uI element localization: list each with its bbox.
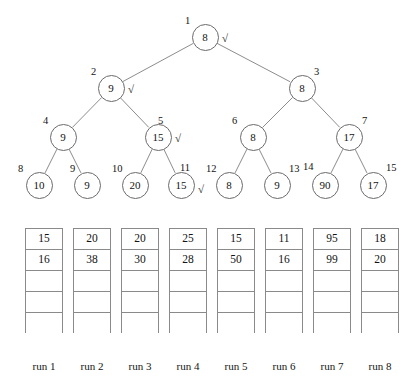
run-column: 2038 xyxy=(73,228,111,333)
run-cell[interactable]: 15 xyxy=(217,228,255,249)
run-cell[interactable]: 16 xyxy=(25,249,63,270)
run-column: 2030 xyxy=(121,228,159,333)
run-column: 1550 xyxy=(217,228,255,333)
run-cell[interactable] xyxy=(217,270,255,291)
run-cell[interactable] xyxy=(73,291,111,312)
run-cell[interactable] xyxy=(265,312,303,333)
run-cell[interactable] xyxy=(25,270,63,291)
run-column: 9599 xyxy=(313,228,351,333)
run-label: run 4 xyxy=(169,361,207,372)
run-cell[interactable] xyxy=(121,270,159,291)
run-cell[interactable]: 11 xyxy=(265,228,303,249)
run-cell[interactable] xyxy=(313,270,351,291)
run-cell[interactable] xyxy=(361,270,399,291)
run-label: run 3 xyxy=(121,361,159,372)
run-cell[interactable] xyxy=(25,291,63,312)
run-column: 1516 xyxy=(25,228,63,333)
run-label: run 5 xyxy=(217,361,255,372)
run-cell[interactable]: 95 xyxy=(313,228,351,249)
run-cell[interactable]: 20 xyxy=(361,249,399,270)
run-cell[interactable] xyxy=(25,312,63,333)
runs-table: 1516run 12038run 22030run 32528run 41550… xyxy=(0,0,416,387)
run-cell[interactable] xyxy=(217,291,255,312)
run-cell[interactable] xyxy=(169,312,207,333)
run-cell[interactable]: 28 xyxy=(169,249,207,270)
run-cell[interactable]: 25 xyxy=(169,228,207,249)
run-cell[interactable] xyxy=(73,270,111,291)
run-column: 1820 xyxy=(361,228,399,333)
run-cell[interactable]: 50 xyxy=(217,249,255,270)
run-cell[interactable] xyxy=(361,291,399,312)
run-cell[interactable]: 20 xyxy=(121,228,159,249)
run-cell[interactable] xyxy=(265,270,303,291)
run-cell[interactable]: 99 xyxy=(313,249,351,270)
run-cell[interactable]: 38 xyxy=(73,249,111,270)
run-column: 1116 xyxy=(265,228,303,333)
run-label: run 1 xyxy=(25,361,63,372)
run-cell[interactable] xyxy=(217,312,255,333)
run-label: run 6 xyxy=(265,361,303,372)
run-cell[interactable] xyxy=(121,291,159,312)
run-label: run 8 xyxy=(361,361,399,372)
run-cell[interactable] xyxy=(265,291,303,312)
run-cell[interactable]: 30 xyxy=(121,249,159,270)
run-cell[interactable]: 20 xyxy=(73,228,111,249)
run-cell[interactable] xyxy=(361,312,399,333)
run-cell[interactable]: 15 xyxy=(25,228,63,249)
run-cell[interactable] xyxy=(169,270,207,291)
run-column: 2528 xyxy=(169,228,207,333)
run-cell[interactable]: 16 xyxy=(265,249,303,270)
run-cell[interactable]: 18 xyxy=(361,228,399,249)
run-label: run 7 xyxy=(313,361,351,372)
tournament-tree-figure: 18√29√3849515√687178109910201115√1281391… xyxy=(0,0,416,387)
run-cell[interactable] xyxy=(313,312,351,333)
run-cell[interactable] xyxy=(313,291,351,312)
run-label: run 2 xyxy=(73,361,111,372)
run-cell[interactable] xyxy=(73,312,111,333)
run-cell[interactable] xyxy=(121,312,159,333)
run-cell[interactable] xyxy=(169,291,207,312)
